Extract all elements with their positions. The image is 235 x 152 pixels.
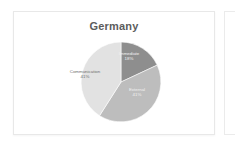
chart-card: Germany Immediate 18% External 41% Commu…	[13, 11, 215, 135]
secondary-panel	[224, 11, 235, 135]
pie-chart-svg	[14, 12, 216, 136]
pie-chart: Immediate 18% External 41% Communication…	[14, 12, 216, 136]
